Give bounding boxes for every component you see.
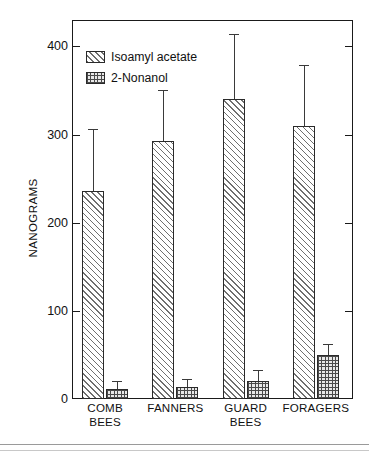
y-tick-label: 100 <box>34 304 68 318</box>
legend-item: Isoamyl acetate <box>86 48 236 66</box>
y-tick-mark-right <box>345 46 353 47</box>
y-tick-mark <box>72 223 80 224</box>
y-tick-mark <box>72 311 80 312</box>
error-bar-line <box>304 65 305 126</box>
y-tick-label: 200 <box>34 216 68 230</box>
bar-isoamyl-acetate <box>152 141 174 399</box>
figure-chart: NANOGRAMS 0100200300400 COMB BEESFANNERS… <box>0 0 369 456</box>
bar-2-nonanol <box>176 387 198 399</box>
error-bar-line <box>93 129 94 191</box>
y-tick-label: 400 <box>34 39 68 53</box>
error-bar-cap <box>182 379 192 380</box>
y-tick-label: 300 <box>34 128 68 142</box>
bar-isoamyl-acetate <box>293 126 315 399</box>
bar-isoamyl-acetate <box>82 191 104 399</box>
y-tick-mark-right <box>345 223 353 224</box>
bar-2-nonanol <box>247 381 269 399</box>
bar-isoamyl-acetate <box>223 99 245 399</box>
footer-rule <box>0 444 369 445</box>
error-bar-cap <box>253 370 263 371</box>
x-category-label: FORAGERS <box>274 401 358 415</box>
error-bar-line <box>328 344 329 355</box>
error-bar-line <box>187 379 188 387</box>
error-bar-cap <box>229 34 239 35</box>
error-bar-cap <box>323 344 333 345</box>
cross-hatch-swatch <box>86 72 105 84</box>
y-tick-mark <box>72 46 80 47</box>
error-bar-cap <box>112 381 122 382</box>
diagonal-hatch-swatch <box>86 51 105 63</box>
chart-legend: Isoamyl acetate2-Nonanol <box>86 48 236 90</box>
footer-rule-secondary <box>0 450 369 451</box>
y-tick-mark-right <box>345 135 353 136</box>
error-bar-line <box>117 381 118 389</box>
y-axis-tick-labels: 0100200300400 <box>28 0 68 456</box>
error-bar-cap <box>299 65 309 66</box>
bar-2-nonanol <box>106 389 128 399</box>
y-tick-mark-right <box>345 311 353 312</box>
legend-item: 2-Nonanol <box>86 69 236 87</box>
y-tick-mark <box>72 135 80 136</box>
bar-2-nonanol <box>317 355 339 399</box>
legend-label: Isoamyl acetate <box>111 50 197 64</box>
legend-label: 2-Nonanol <box>111 71 168 85</box>
error-bar-line <box>163 90 164 141</box>
error-bar-cap <box>88 129 98 130</box>
error-bar-line <box>258 370 259 381</box>
